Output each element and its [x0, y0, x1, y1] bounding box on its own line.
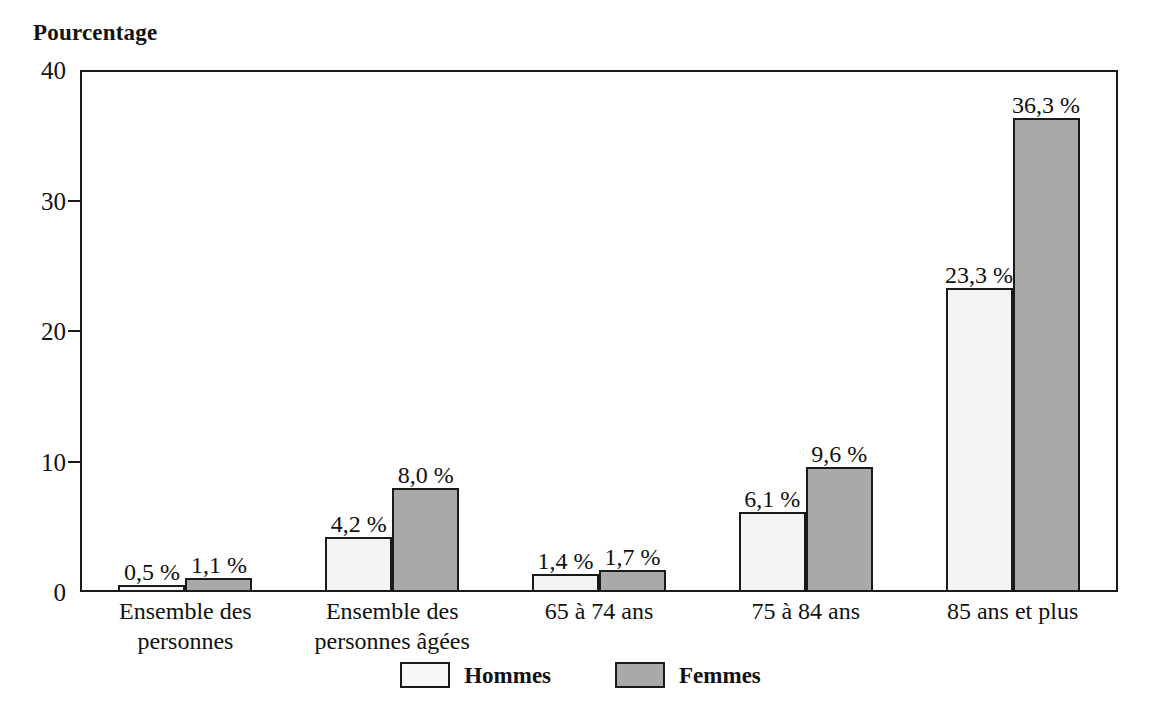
bar-femmes[interactable]: 1,7 % [599, 570, 666, 592]
bar-hommes[interactable]: 4,2 % [325, 537, 392, 592]
legend-item-femmes[interactable]: Femmes [615, 662, 761, 688]
category-label-line: Ensemble des [289, 596, 496, 626]
y-axis: 403020100 [0, 0, 66, 723]
bar-value-label: 9,6 % [811, 442, 867, 466]
category-label: 75 à 84 ans [702, 596, 909, 626]
category-label-line: personnes [82, 626, 289, 656]
bar-value-label: 4,2 % [331, 512, 387, 536]
y-axis-tick-label: 20 [41, 319, 66, 344]
bar-value-label: 8,0 % [398, 463, 454, 487]
y-axis-tick-mark [68, 330, 80, 332]
y-axis-tick-label: 30 [41, 188, 66, 213]
bar-group: 23,3 %36,3 % [909, 70, 1116, 592]
bar-group: 0,5 %1,1 % [82, 70, 289, 592]
y-axis-tick-label: 10 [41, 449, 66, 474]
y-axis-tick-label: 40 [41, 58, 66, 83]
bar-value-label: 1,4 % [537, 549, 593, 573]
bar-hommes[interactable]: 0,5 % [118, 585, 185, 592]
legend-swatch-hommes [400, 662, 450, 688]
bar-femmes[interactable]: 36,3 % [1013, 118, 1080, 592]
bar-hommes[interactable]: 1,4 % [532, 574, 599, 592]
bar-hommes[interactable]: 23,3 % [946, 288, 1013, 592]
category-label: Ensemble despersonnes âgées [289, 596, 496, 656]
x-axis-category-labels: Ensemble despersonnesEnsemble despersonn… [82, 596, 1116, 660]
bar-value-label: 1,7 % [604, 545, 660, 569]
bar-femmes[interactable]: 9,6 % [806, 467, 873, 592]
legend-label: Hommes [464, 664, 551, 687]
legend-item-hommes[interactable]: Hommes [400, 662, 551, 688]
y-axis-tick-marks [68, 0, 82, 723]
bar-hommes[interactable]: 6,1 % [739, 512, 806, 592]
bar-group: 1,4 %1,7 % [496, 70, 703, 592]
category-label-line: 75 à 84 ans [702, 596, 909, 626]
y-axis-tick-mark [68, 461, 80, 463]
category-label: 85 ans et plus [909, 596, 1116, 626]
bar-femmes[interactable]: 1,1 % [185, 578, 252, 592]
bar-value-label: 23,3 % [945, 263, 1013, 287]
bars-layer: 0,5 %1,1 %4,2 %8,0 %1,4 %1,7 %6,1 %9,6 %… [82, 70, 1116, 592]
bar-value-label: 6,1 % [744, 487, 800, 511]
category-label-line: 65 à 74 ans [496, 596, 703, 626]
legend-label: Femmes [679, 664, 761, 687]
bar-group: 4,2 %8,0 % [289, 70, 496, 592]
bar-femmes[interactable]: 8,0 % [392, 488, 459, 592]
legend-swatch-femmes [615, 662, 665, 688]
bar-value-label: 1,1 % [191, 553, 247, 577]
bar-group: 6,1 %9,6 % [702, 70, 909, 592]
bar-value-label: 0,5 % [124, 560, 180, 584]
y-axis-tick-mark [68, 200, 80, 202]
category-label-line: 85 ans et plus [909, 596, 1116, 626]
category-label-line: Ensemble des [82, 596, 289, 626]
bar-value-label: 36,3 % [1012, 93, 1080, 117]
y-axis-tick-label: 0 [54, 580, 67, 605]
category-label-line: personnes âgées [289, 626, 496, 656]
legend: HommesFemmes [0, 662, 1161, 688]
category-label: 65 à 74 ans [496, 596, 703, 626]
category-label: Ensemble despersonnes [82, 596, 289, 656]
